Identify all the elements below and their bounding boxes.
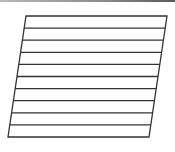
striped-parallelogram-diagram: [0, 0, 175, 152]
